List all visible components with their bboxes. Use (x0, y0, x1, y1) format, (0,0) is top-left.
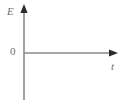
axes-canvas (0, 0, 128, 103)
axes-diagram: E 0 t (0, 0, 128, 103)
origin-label: 0 (10, 46, 16, 57)
x-axis-arrowhead-icon (109, 49, 118, 56)
y-axis-arrowhead-icon (20, 4, 27, 13)
x-axis-label: t (111, 61, 114, 72)
y-axis-label: E (7, 6, 14, 17)
